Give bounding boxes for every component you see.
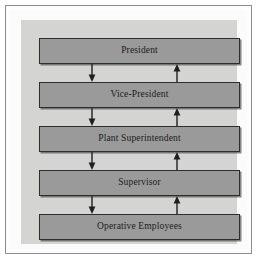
org-node-plant-superintendent[interactable]: Plant Superintendent [39,126,240,152]
org-node-label: Operative Employees [97,222,182,232]
org-node-president[interactable]: President [39,38,240,64]
org-node-label: Plant Superintendent [98,134,180,144]
org-node-operative-employees[interactable]: Operative Employees [39,214,240,240]
org-node-label: Supervisor [118,178,161,188]
figure-matte: President Vice-President Plant Superinte… [10,10,247,249]
org-nodes-layer: President Vice-President Plant Superinte… [21,20,237,244]
org-node-label: Vice-President [111,90,169,100]
org-node-label: President [121,46,158,56]
org-node-vice-president[interactable]: Vice-President [39,82,240,108]
figure-frame: President Vice-President Plant Superinte… [5,5,252,254]
org-node-supervisor[interactable]: Supervisor [39,170,240,196]
org-chart-panel: President Vice-President Plant Superinte… [21,20,237,244]
